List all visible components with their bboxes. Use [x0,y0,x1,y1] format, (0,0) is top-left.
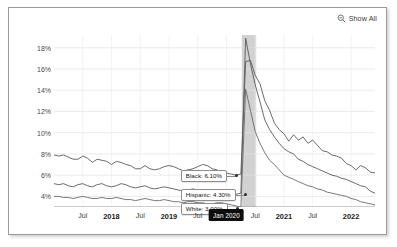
x-axis-tick-label: Jul [308,212,317,219]
x-axis-tick-label: Jul [136,212,145,219]
y-axis-tick-label: 4% [41,193,51,200]
x-axis-tick-label: Jul [193,212,202,219]
x-axis-tick-label: 2019 [161,212,177,221]
y-axis-tick-label: 6% [41,172,51,179]
x-axis-tick-label-highlighted: Jan 2020 [209,209,244,221]
y-axis-tick-label: 10% [37,129,51,136]
show-all-label: Show All [349,14,377,23]
chart-card: Show All 4%6%8%10%12%14%16%18% Black: 6.… [8,7,387,235]
y-axis-tick-label: 8% [41,150,51,157]
annotation-callout-black[interactable]: Black: 6.10% [181,170,227,182]
x-axis-tick-label: 2022 [343,212,359,221]
y-axis-tick-label: 16% [37,65,51,72]
y-axis-tick-label: 12% [37,108,51,115]
x-axis-tick-label: Jul [78,212,87,219]
x-axis-tick-label: 2018 [103,212,119,221]
y-axis: 4%6%8%10%12%14%16%18% [23,35,51,207]
y-axis-tick-label: 18% [37,44,51,51]
y-axis-tick-label: 14% [37,87,51,94]
plot-area: Black: 6.10%Hispanic: 4.30%White: 3.00% [54,35,375,207]
series-line-black [54,60,375,175]
x-axis: Jul2018Jul2019JulJan 2020Jul2021Jul2022 [54,208,375,228]
x-axis-tick-label: 2021 [276,212,292,221]
annotation-callout-hispanic[interactable]: Hispanic: 4.30% [181,189,236,201]
x-axis-tick-label: Jul [251,212,260,219]
magnifier-minus-icon [337,14,346,23]
show-all-button[interactable]: Show All [337,14,377,23]
